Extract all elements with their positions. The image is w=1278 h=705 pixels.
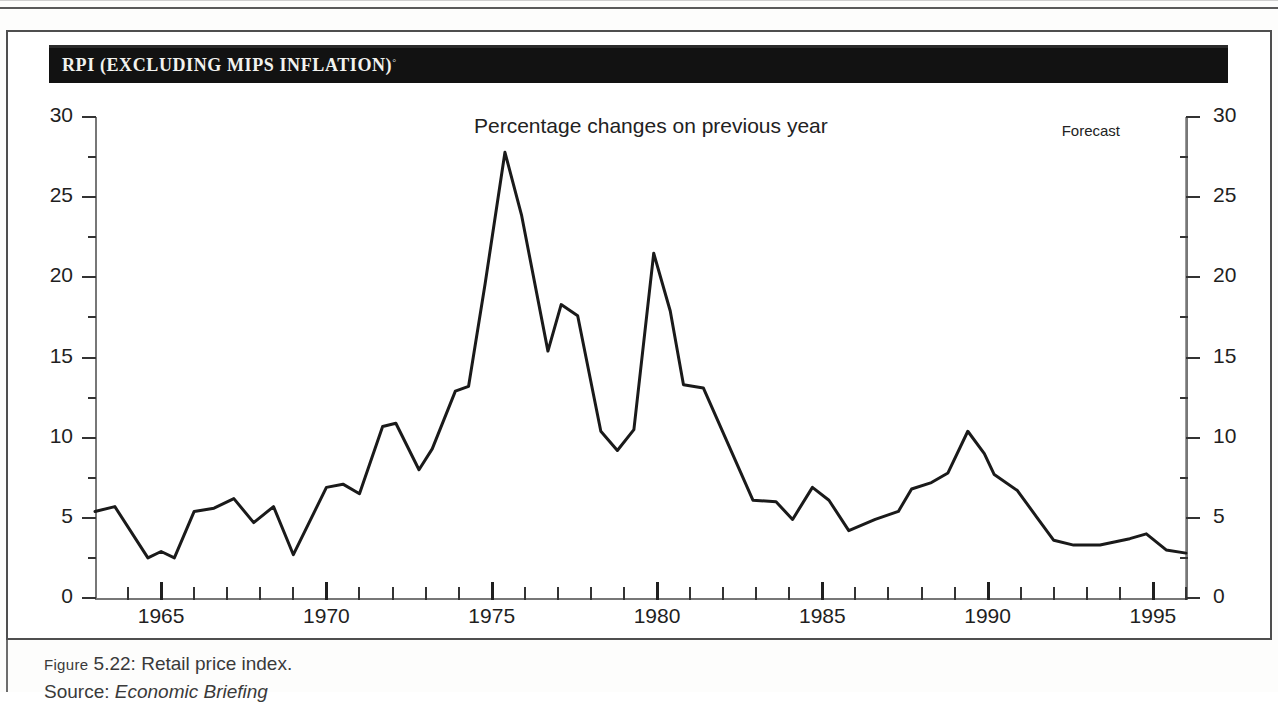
y-axis-label-right: 25 bbox=[1213, 183, 1253, 207]
caption-left-rule bbox=[6, 640, 8, 692]
source-label: Source: bbox=[44, 681, 109, 702]
y-axis-label-left: 5 bbox=[33, 504, 73, 528]
y-tick-major bbox=[1186, 437, 1200, 439]
x-axis-label: 1990 bbox=[964, 604, 1011, 628]
x-axis-label: 1985 bbox=[799, 604, 846, 628]
x-axis-label: 1980 bbox=[634, 604, 681, 628]
y-tick-major bbox=[1186, 196, 1200, 198]
y-tick-major bbox=[1186, 517, 1200, 519]
y-tick-major bbox=[82, 597, 96, 599]
caption-label: Figure bbox=[44, 656, 88, 673]
y-tick-major bbox=[82, 517, 96, 519]
y-axis-label-left: 25 bbox=[33, 183, 73, 207]
page-top-hairline bbox=[0, 0, 1278, 1]
y-axis-label-left: 30 bbox=[33, 103, 73, 127]
chart-title: RPI (EXCLUDING MIPS INFLATION)◦ bbox=[62, 54, 397, 76]
y-axis-label-right: 30 bbox=[1213, 103, 1253, 127]
x-axis-label: 1995 bbox=[1130, 604, 1177, 628]
x-axis-label: 1965 bbox=[138, 604, 185, 628]
y-tick-major bbox=[82, 276, 96, 278]
x-axis-label: 1970 bbox=[303, 604, 350, 628]
y-tick-major bbox=[82, 437, 96, 439]
y-tick-major bbox=[82, 196, 96, 198]
chart-title-text: RPI (EXCLUDING MIPS INFLATION) bbox=[62, 55, 392, 75]
y-axis-label-right: 15 bbox=[1213, 344, 1253, 368]
y-tick-major bbox=[1186, 597, 1200, 599]
chart-title-banner: RPI (EXCLUDING MIPS INFLATION)◦ bbox=[49, 45, 1228, 83]
figure-caption: Figure 5.22: Retail price index. Source:… bbox=[44, 650, 292, 705]
y-tick-major bbox=[1186, 276, 1200, 278]
y-axis-label-right: 20 bbox=[1213, 263, 1253, 287]
y-axis-label-right: 0 bbox=[1213, 584, 1253, 608]
data-series-line bbox=[95, 117, 1188, 600]
chart-title-marker: ◦ bbox=[392, 54, 397, 66]
source-name: Economic Briefing bbox=[115, 681, 268, 702]
y-axis-label-right: 10 bbox=[1213, 424, 1253, 448]
y-axis-label-left: 0 bbox=[33, 584, 73, 608]
caption-text: Retail price index. bbox=[141, 653, 292, 674]
y-axis-label-left: 20 bbox=[33, 263, 73, 287]
page-top-rule bbox=[0, 7, 1278, 9]
y-tick-major bbox=[82, 357, 96, 359]
y-axis-label-left: 15 bbox=[33, 344, 73, 368]
caption-title-line: Figure 5.22: Retail price index. bbox=[44, 650, 292, 678]
caption-number: 5.22: bbox=[94, 653, 136, 674]
y-axis-label-left: 10 bbox=[33, 424, 73, 448]
plot-area: 051015202530 051015202530 19651970197519… bbox=[95, 117, 1188, 600]
x-axis-label: 1975 bbox=[468, 604, 515, 628]
y-axis-label-right: 5 bbox=[1213, 504, 1253, 528]
y-tick-major bbox=[82, 116, 96, 118]
y-tick-major bbox=[1186, 357, 1200, 359]
y-tick-major bbox=[1186, 116, 1200, 118]
forecast-label: Forecast bbox=[1062, 122, 1120, 139]
caption-source-line: Source: Economic Briefing bbox=[44, 678, 292, 705]
